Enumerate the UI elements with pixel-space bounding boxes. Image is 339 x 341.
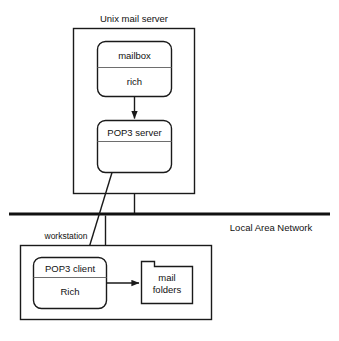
mail-folders-node[interactable]: mail folders — [142, 262, 193, 304]
workstation-container-label: workstation — [44, 231, 88, 241]
pop3-client-node-body: Rich — [60, 286, 79, 297]
mail-folders-line2: folders — [153, 284, 182, 295]
mailbox-node-body: rich — [127, 76, 142, 87]
server-container-label: Unix mail server — [100, 13, 168, 24]
pop3-architecture-diagram: Unix mail server mailbox rich POP3 serve… — [0, 0, 339, 341]
pop3-client-node[interactable]: POP3 client Rich — [34, 258, 107, 309]
lan-label: Local Area Network — [230, 222, 313, 233]
mailbox-node[interactable]: mailbox rich — [98, 42, 172, 97]
pop3-server-node-header: POP3 server — [107, 127, 161, 138]
lan-bus-line — [9, 213, 330, 216]
mail-folders-line1: mail — [158, 272, 175, 283]
pop3-client-node-header: POP3 client — [45, 263, 96, 274]
mailbox-node-header: mailbox — [118, 50, 151, 61]
diagram-canvas: Unix mail server mailbox rich POP3 serve… — [0, 0, 339, 341]
pop3-server-node[interactable]: POP3 server — [98, 121, 172, 173]
